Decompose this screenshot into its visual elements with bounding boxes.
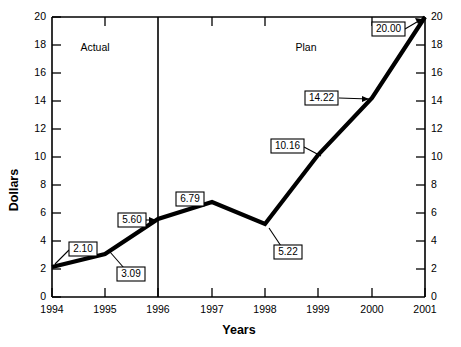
top-axis-ticks	[105, 17, 372, 26]
value-text-1994: 2.10	[73, 243, 93, 254]
y-label-right-14: 14	[431, 94, 443, 106]
x-label-1998: 1998	[253, 303, 277, 315]
x-label-1995: 1995	[93, 303, 117, 315]
value-label-1998: 5.22	[274, 245, 302, 259]
chart-canvas: 20 18 16 14 12 10 8 6 4 2 0 20 18 16 14 …	[0, 0, 461, 347]
value-label-1995: 3.09	[117, 267, 145, 281]
y-label-10: 10	[34, 150, 46, 162]
y-label-right-0: 0	[431, 290, 437, 302]
value-text-2000: 14.22	[309, 92, 334, 103]
value-text-1996: 5.60	[122, 214, 142, 225]
x-axis-labels: 1994 1995 1996 1997 1998 1999 2000 2001	[40, 303, 437, 315]
y-label-4: 4	[40, 234, 46, 246]
value-text-2001: 20.00	[376, 23, 401, 34]
value-text-1995: 3.09	[121, 268, 141, 279]
y-label-8: 8	[40, 178, 46, 190]
value-label-2000: 14.22	[305, 91, 338, 105]
label-leader-lines	[55, 18, 422, 268]
value-text-1997: 6.79	[180, 193, 200, 204]
leader-1998	[269, 228, 281, 246]
y-axis-title: Dollars	[7, 169, 21, 211]
y-label-14: 14	[34, 94, 46, 106]
data-series-line	[52, 17, 425, 267]
y-axis-labels-right: 20 18 16 14 12 10 8 6 4 2 0	[431, 10, 443, 302]
value-label-1996: 5.60	[118, 213, 146, 227]
y-label-2: 2	[40, 262, 46, 274]
y-axis-labels-left: 20 18 16 14 12 10 8 6 4 2 0	[34, 10, 46, 302]
y-label-right-12: 12	[431, 122, 443, 134]
y-axis-ticks-left	[52, 17, 61, 297]
x-axis-ticks	[52, 288, 425, 297]
value-text-1999: 10.16	[275, 140, 300, 151]
y-label-16: 16	[34, 66, 46, 78]
x-label-1999: 1999	[306, 303, 330, 315]
value-label-1997: 6.79	[176, 192, 204, 206]
x-label-2001: 2001	[413, 303, 437, 315]
y-label-20: 20	[34, 10, 46, 22]
y-label-right-6: 6	[431, 206, 437, 218]
y-label-right-2: 2	[431, 262, 437, 274]
line-chart: 20 18 16 14 12 10 8 6 4 2 0 20 18 16 14 …	[0, 0, 461, 347]
x-label-2000: 2000	[360, 303, 384, 315]
y-label-right-16: 16	[431, 66, 443, 78]
y-label-18: 18	[34, 38, 46, 50]
y-label-right-8: 8	[431, 178, 437, 190]
value-text-1998: 5.22	[278, 246, 298, 257]
y-axis-ticks-right	[416, 45, 425, 269]
leader-1995	[110, 252, 124, 268]
y-label-6: 6	[40, 206, 46, 218]
value-label-2001: 20.00	[372, 22, 405, 36]
y-label-right-10: 10	[431, 150, 443, 162]
region-label-plan: Plan	[295, 41, 316, 53]
y-label-right-18: 18	[431, 38, 443, 50]
x-label-1997: 1997	[200, 303, 224, 315]
x-axis-title: Years	[222, 323, 255, 337]
y-label-0: 0	[40, 290, 46, 302]
value-label-1999: 10.16	[271, 139, 304, 153]
y-label-12: 12	[34, 122, 46, 134]
region-label-actual: Actual	[80, 41, 109, 53]
y-label-right-20: 20	[431, 10, 443, 22]
y-label-right-4: 4	[431, 234, 437, 246]
plot-frame	[52, 17, 425, 297]
x-label-1994: 1994	[40, 303, 64, 315]
value-label-1994: 2.10	[69, 242, 97, 256]
x-label-1996: 1996	[146, 303, 170, 315]
